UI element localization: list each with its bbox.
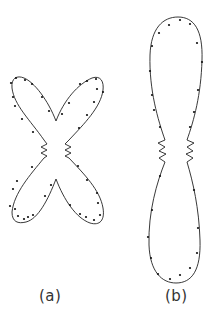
- panel-a-data-points: [9, 77, 104, 221]
- panel-a-label: (a): [39, 287, 61, 305]
- figure-canvas: [0, 0, 217, 318]
- panel-b-label: (b): [165, 287, 188, 305]
- panel-a-diagram: [12, 77, 104, 224]
- panel-b-data-points: [147, 19, 203, 280]
- panel-b-diagram: [149, 17, 202, 283]
